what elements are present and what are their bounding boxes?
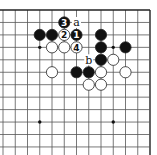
- white-stone: [108, 54, 119, 65]
- black-stone: [83, 67, 94, 78]
- black-stone: [95, 54, 106, 65]
- move-number-label: 3: [61, 18, 67, 28]
- star-point: [112, 46, 115, 49]
- move-number-label: 2: [61, 30, 67, 40]
- star-point: [38, 120, 41, 123]
- black-stone: 3: [59, 17, 70, 28]
- black-stone: [46, 29, 57, 40]
- point-label-a: a: [73, 16, 80, 29]
- point-label-b: b: [85, 54, 92, 67]
- black-stone: [34, 29, 45, 40]
- white-stone: 2: [59, 29, 70, 40]
- white-stone: [95, 67, 106, 78]
- marks-layer: ab: [72, 16, 93, 66]
- white-stone: [95, 79, 106, 90]
- white-stone: [120, 67, 131, 78]
- white-stone: [46, 42, 57, 53]
- black-stone: [120, 42, 131, 53]
- white-stone: [46, 67, 57, 78]
- white-stone: [83, 79, 94, 90]
- white-stone: [59, 42, 70, 53]
- black-stone: [95, 42, 106, 53]
- star-point: [38, 46, 41, 49]
- black-stone: 1: [71, 29, 82, 40]
- white-stone: 4: [71, 42, 82, 53]
- go-board: 2134 ab: [0, 0, 157, 155]
- black-stone: [95, 29, 106, 40]
- black-stone: [71, 67, 82, 78]
- move-number-label: 1: [73, 30, 79, 40]
- star-point: [112, 120, 115, 123]
- move-number-label: 4: [73, 43, 79, 53]
- stones-layer: 2134: [34, 17, 131, 90]
